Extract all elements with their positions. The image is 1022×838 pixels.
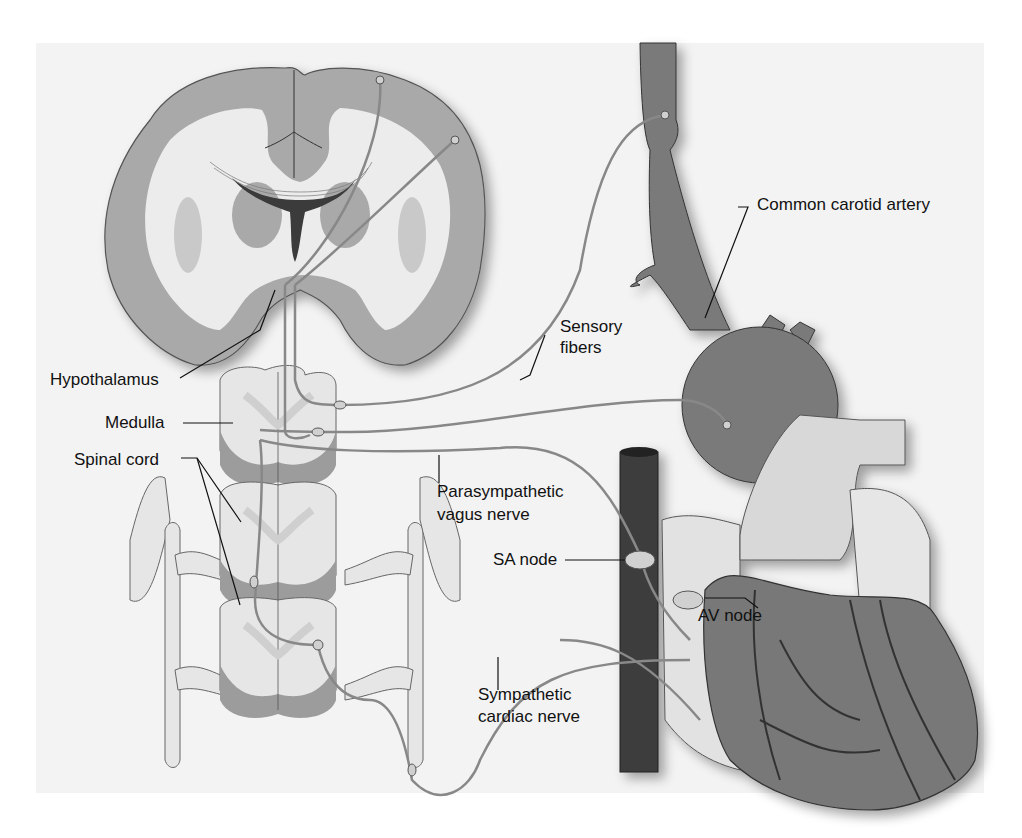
- label-av-node: AV node: [698, 606, 762, 626]
- label-common-carotid-artery: Common carotid artery: [757, 195, 930, 215]
- label-parasympathetic-line1: Parasympathetic: [437, 482, 564, 502]
- label-spinal-cord: Spinal cord: [74, 450, 159, 470]
- label-sensory-fibers-line2: fibers: [560, 338, 602, 358]
- sa-node-shape: [625, 551, 655, 569]
- label-sa-node: SA node: [493, 550, 557, 570]
- spinal-cord-segments: [130, 365, 460, 767]
- label-parasympathetic-line2: vagus nerve: [437, 505, 530, 525]
- heart-and-carotid: [620, 43, 978, 810]
- label-sympathetic-line2: cardiac nerve: [478, 707, 580, 727]
- label-medulla: Medulla: [105, 413, 165, 433]
- label-hypothalamus: Hypothalamus: [50, 370, 159, 390]
- label-sensory-fibers-line1: Sensory: [560, 317, 622, 337]
- label-sympathetic-line1: Sympathetic: [478, 685, 572, 705]
